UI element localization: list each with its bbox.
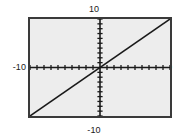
x-axis-min-label: -10 [1, 62, 26, 72]
y-axis-max-label: 10 [0, 4, 188, 14]
plot-frame [28, 17, 172, 118]
y-axis-min-label: -10 [0, 125, 188, 135]
coordinate-graph: 10 -10 10 -10 [0, 0, 188, 138]
plot-canvas [30, 19, 170, 116]
